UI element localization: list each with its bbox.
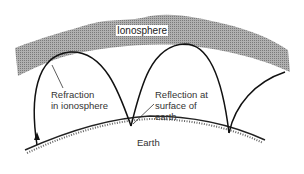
refraction-label-line2: in ionosphere [51,100,108,111]
ionosphere-label: Ionosphere [116,25,168,36]
reflection-label-line2: surface of [155,100,197,111]
reflection-label-line3: earth [155,111,177,122]
ray-3 [229,72,285,133]
refraction-pointer [52,65,63,88]
earth-label: Earth [137,137,160,148]
ionosphere-layer [15,15,290,76]
refraction-label-line1: Refraction [51,89,94,100]
reflection-label-line1: Reflection at [155,89,208,100]
